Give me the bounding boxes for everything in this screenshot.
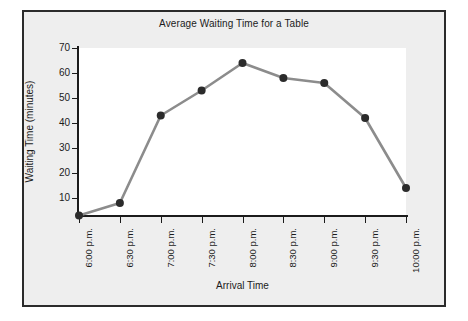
- x-tick-mark: [120, 217, 121, 223]
- x-tick-label: 9:30 p.m.: [369, 228, 380, 268]
- y-tick-mark: [72, 98, 78, 99]
- x-tick-mark: [324, 217, 325, 223]
- chart-title: Average Waiting Time for a Table: [0, 18, 468, 29]
- y-axis-title: Waiting Time (minutes): [24, 46, 38, 217]
- x-tick-label: 6:00 p.m.: [83, 228, 94, 268]
- x-tick-label: 8:00 p.m.: [247, 228, 258, 268]
- y-tick-label-wrap: 20: [46, 168, 70, 178]
- y-tick-label: 10: [48, 193, 70, 203]
- y-tick-label: 70: [48, 43, 70, 53]
- x-tick-label: 7:30 p.m.: [206, 228, 217, 268]
- y-tick-label-wrap: 10: [46, 193, 70, 203]
- y-tick-mark: [72, 73, 78, 74]
- x-tick-mark: [79, 217, 80, 223]
- y-tick-label-wrap: 50: [46, 93, 70, 103]
- x-tick-mark: [365, 217, 366, 223]
- x-tick-label: 10:00 p.m.: [410, 228, 421, 273]
- y-tick-mark: [72, 48, 78, 49]
- y-tick-label: 50: [48, 93, 70, 103]
- y-tick-label: 60: [48, 68, 70, 78]
- y-tick-label-wrap: 30: [46, 143, 70, 153]
- y-tick-mark: [72, 198, 78, 199]
- x-tick-mark: [202, 217, 203, 223]
- x-tick-mark: [243, 217, 244, 223]
- x-tick-mark: [406, 217, 407, 223]
- y-tick-label-wrap: 60: [46, 68, 70, 78]
- y-tick-label-wrap: 40: [46, 118, 70, 128]
- y-tick-label: 20: [48, 168, 70, 178]
- y-tick-label-wrap: 70: [46, 43, 70, 53]
- y-tick-mark: [72, 148, 78, 149]
- x-tick-label: 8:30 p.m.: [287, 228, 298, 268]
- y-tick-mark: [72, 123, 78, 124]
- y-tick-mark: [72, 173, 78, 174]
- plot-area: [79, 48, 406, 215]
- x-tick-mark: [283, 217, 284, 223]
- x-axis-title: Arrival Time: [79, 280, 406, 291]
- y-axis-line: [77, 46, 79, 217]
- x-tick-label: 9:00 p.m.: [328, 228, 339, 268]
- chart-figure: Average Waiting Time for a Table Waiting…: [0, 0, 468, 321]
- y-tick-label: 30: [48, 143, 70, 153]
- x-tick-label: 6:30 p.m.: [124, 228, 135, 268]
- x-tick-mark: [161, 217, 162, 223]
- x-tick-label: 7:00 p.m.: [165, 228, 176, 268]
- y-tick-label: 40: [48, 118, 70, 128]
